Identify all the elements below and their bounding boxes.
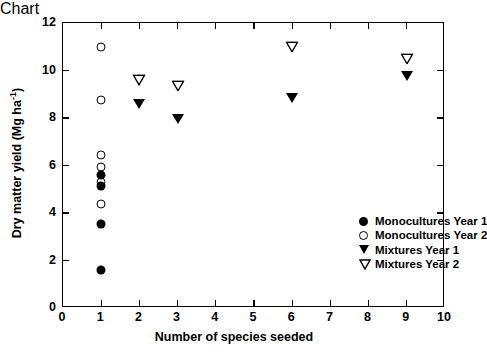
x-tick-top [292,23,293,29]
y-axis-title-exponent: -1 [8,92,18,100]
x-tick-label: 9 [391,310,421,324]
legend-item: Mixtures Year 2 [359,257,487,271]
legend-marker-filled-circle-icon [359,217,375,226]
x-tick-bottom [253,300,254,306]
data-point-marker [97,266,106,275]
data-point-marker [172,114,184,124]
y-tick-left [63,260,69,261]
y-axis-title-tail: ) [10,88,24,92]
legend-marker-filled-triangle-down-icon [359,245,375,254]
data-point-marker [97,42,106,51]
data-point-marker [97,199,106,208]
y-tick-left [63,117,69,118]
chart-legend: Monocultures Year 1Monocultures Year 2Mi… [359,214,487,272]
x-tick-bottom [215,300,216,306]
data-point-marker [401,71,413,81]
data-point-marker [97,150,106,159]
x-tick-label: 8 [353,310,383,324]
x-tick-top [177,23,178,29]
x-tick-label: 6 [276,310,306,324]
y-axis-title: Dry matter yield (Mg ha-1) [8,43,24,283]
x-tick-label: 1 [85,310,115,324]
data-point-marker [171,80,184,92]
x-tick-bottom [101,300,102,306]
y-tick-label: 4 [26,205,56,219]
x-tick-label: 2 [123,310,153,324]
data-point-marker [286,41,299,53]
y-tick-left [63,212,69,213]
x-tick-bottom [139,300,140,306]
x-tick-label: 7 [314,310,344,324]
y-tick-right [437,165,443,166]
data-point-marker [133,99,145,109]
y-axis-title-main: Dry matter yield (Mg ha [10,100,24,238]
x-tick-label: 3 [162,310,192,324]
x-tick-top [101,23,102,29]
x-axis-title: Number of species seeded [0,330,468,344]
x-tick-top [215,23,216,29]
y-tick-left [63,70,69,71]
x-tick-top [139,23,140,29]
x-tick-bottom [177,300,178,306]
x-tick-bottom [406,300,407,306]
legend-label: Monocultures Year 2 [375,228,487,242]
data-point-marker [97,171,106,180]
x-tick-top [406,23,407,29]
y-tick-right [437,70,443,71]
x-tick-bottom [368,300,369,306]
x-tick-label: 4 [200,310,230,324]
data-point-marker [133,74,146,86]
x-tick-label: 0 [47,310,77,324]
x-tick-label: 5 [238,310,268,324]
x-tick-label: 10 [429,310,459,324]
y-tick-label: 2 [26,253,56,267]
x-tick-bottom [292,300,293,306]
x-tick-top [253,23,254,29]
data-point-marker [97,178,106,187]
y-tick-label: 6 [26,158,56,172]
data-point-marker [97,162,106,171]
legend-label: Mixtures Year 2 [375,257,459,271]
plot-area: Monocultures Year 1Monocultures Year 2Mi… [62,22,444,307]
y-tick-label: 12 [26,15,56,29]
data-point-marker [97,181,106,190]
data-point-marker [97,96,106,105]
legend-item: Monocultures Year 1 [359,214,487,228]
y-axis-title-wrapper: Dry matter yield (Mg ha-1) [0,0,26,330]
y-tick-label: 10 [26,63,56,77]
legend-label: Mixtures Year 1 [375,243,459,257]
x-tick-top [330,23,331,29]
legend-item: Mixtures Year 1 [359,243,487,257]
legend-label: Monocultures Year 1 [375,214,487,228]
data-point-marker [286,93,298,103]
x-tick-top [368,23,369,29]
y-tick-right [437,117,443,118]
y-tick-label: 8 [26,110,56,124]
legend-marker-open-circle-icon [359,231,375,240]
y-tick-left [63,165,69,166]
data-point-marker [97,219,106,228]
data-point-marker [400,53,413,65]
legend-item: Monocultures Year 2 [359,228,487,242]
legend-marker-open-triangle-down-icon [359,259,375,270]
x-tick-bottom [330,300,331,306]
